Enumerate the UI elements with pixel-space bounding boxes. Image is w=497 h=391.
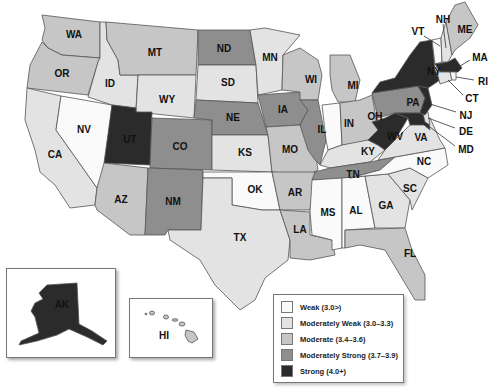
state-AR[interactable]: [272, 172, 315, 210]
island-maui[interactable]: [179, 322, 185, 326]
state-NY[interactable]: [372, 40, 440, 93]
hawaii-inset: HI: [129, 298, 213, 358]
legend-label: Moderately Weak (3.0–3.3): [300, 319, 393, 328]
island-niihau[interactable]: [145, 313, 147, 315]
legend-swatch-moderately-weak: [281, 317, 293, 329]
hawaii-map: HI: [130, 299, 212, 357]
state-MI[interactable]: [330, 55, 360, 102]
state-ME[interactable]: [446, 2, 478, 55]
alaska-map: AK: [7, 269, 115, 357]
legend-label: Moderately Strong (3.7–3.9): [300, 351, 398, 360]
island-molokai[interactable]: [172, 319, 178, 321]
state-ND[interactable]: [198, 30, 256, 65]
state-CT[interactable]: [437, 72, 452, 84]
legend-label: Strong (4.0+): [300, 367, 346, 376]
legend-swatch-strong: [281, 365, 293, 377]
state-AK[interactable]: [19, 283, 107, 345]
state-WY[interactable]: [136, 75, 196, 118]
label-AK: AK: [55, 299, 70, 310]
legend: Weak (3.0>) Moderately Weak (3.0–3.3) Mo…: [273, 294, 404, 383]
legend-swatch-weak: [281, 301, 293, 313]
state-UT[interactable]: [104, 105, 152, 165]
state-AZ[interactable]: [95, 163, 148, 235]
legend-label: Moderate (3.4–3.6): [300, 335, 365, 344]
legend-item-moderate: Moderate (3.4–3.6): [281, 331, 403, 347]
island-oahu[interactable]: [164, 315, 169, 319]
state-MT[interactable]: [106, 22, 198, 75]
state-NM[interactable]: [145, 168, 203, 235]
state-WI[interactable]: [282, 48, 322, 100]
state-SD[interactable]: [196, 65, 258, 103]
legend-swatch-moderately-strong: [281, 349, 293, 361]
legend-item-strong: Strong (4.0+): [281, 363, 403, 379]
island-hawaii[interactable]: [185, 330, 198, 343]
state-FL[interactable]: [345, 228, 425, 300]
legend-item-weak: Weak (3.0>): [281, 299, 403, 315]
island-kauai[interactable]: [150, 311, 155, 315]
legend-swatch-moderate: [281, 333, 293, 345]
legend-item-moderately-strong: Moderately Strong (3.7–3.9): [281, 347, 403, 363]
legend-label: Weak (3.0>): [300, 303, 341, 312]
label-HI: HI: [159, 330, 169, 341]
legend-item-moderately-weak: Moderately Weak (3.0–3.3): [281, 315, 403, 331]
state-CO[interactable]: [150, 118, 212, 170]
state-KS[interactable]: [212, 135, 272, 172]
alaska-inset: AK: [6, 268, 116, 358]
